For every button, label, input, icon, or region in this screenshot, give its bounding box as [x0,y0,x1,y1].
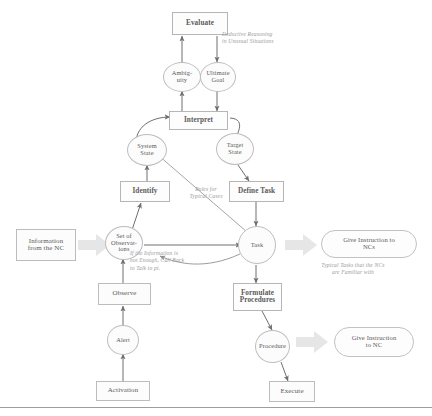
node-activation[interactable]: Activation [96,381,150,401]
node-formulate-procedures-label: FormulateProcedures [240,290,275,305]
edge-observations-identify [132,203,141,230]
edge-procedure-execute [281,362,288,381]
node-alert-label: Alert [116,337,130,344]
node-target-state[interactable]: TargetState [216,133,254,165]
edge-targetstate-definetask [238,165,249,181]
node-information-from-nc[interactable]: Informationfrom the NC [16,229,76,261]
caption-call-back: If the Information isnot Enough, Call Ba… [130,250,218,272]
caption-deductive-reasoning: Deductive Reasoningin Unusual Situations [222,31,327,46]
node-task[interactable]: Task [238,226,276,264]
node-alert[interactable]: Alert [107,325,139,355]
edge-formulate-procedure [262,311,272,330]
node-define-task-label: Define Task [238,188,275,195]
node-execute[interactable]: Execute [269,381,315,402]
caption-rules-for-typical-cases: Rules forTypical Cases [176,186,236,201]
node-evaluate[interactable]: Evaluate [172,12,228,35]
figure-bottom-rule [0,407,432,408]
node-information-from-nc-label: Informationfrom the NC [28,238,64,252]
node-formulate-procedures[interactable]: FormulateProcedures [233,283,282,311]
node-activation-label: Activation [108,387,139,394]
node-system-state[interactable]: SystemState [127,134,167,166]
node-ambiguity-label: Ambig-uity [172,70,192,83]
node-system-state-label: SystemState [137,143,156,156]
node-evaluate-label: Evaluate [186,20,214,27]
node-interpret[interactable]: Interpret [169,111,228,130]
node-identify[interactable]: Identify [120,181,170,202]
node-identify-label: Identify [132,188,157,195]
node-observe[interactable]: Observe [98,283,151,305]
node-procedure-label: Procedure [259,343,286,350]
node-give-instruction-to-nc[interactable]: Give Instructionto NC [334,327,414,357]
node-ultimate-goal-label: UltimateGoal [206,70,229,83]
node-ambiguity[interactable]: Ambig-uity [163,62,201,92]
node-give-instruction-to-ncs[interactable]: Give Instruction toNCs [321,230,417,258]
node-interpret-label: Interpret [184,117,213,124]
node-define-task[interactable]: Define Task [229,181,284,202]
caption-typical-tasks: Typical Tasks that the NCsare Familiar w… [291,262,415,277]
node-observe-label: Observe [112,290,136,297]
node-task-label: Task [251,242,263,249]
node-ultimate-goal[interactable]: UltimateGoal [200,62,236,92]
block-arrow-procedure-instruction-nc [296,331,328,353]
node-procedure[interactable]: Procedure [255,330,290,363]
block-arrow-task-instruction-ncs [285,234,317,256]
node-give-instruction-to-ncs-label: Give Instruction toNCs [343,237,395,250]
node-target-state-label: TargetState [227,142,244,155]
diagram-canvas: Evaluate Ambig-uity UltimateGoal Interpr… [0,0,432,416]
node-give-instruction-to-nc-label: Give Instructionto NC [352,335,397,348]
node-execute-label: Execute [280,388,303,395]
